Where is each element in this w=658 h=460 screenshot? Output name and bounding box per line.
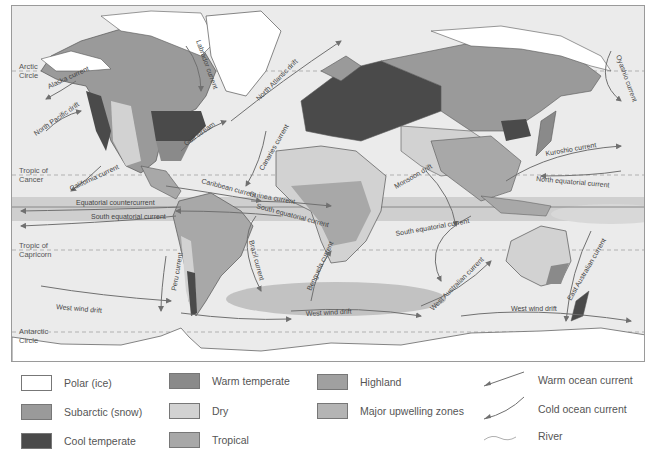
antarctica: [12, 328, 645, 362]
label-north-equatorial-current: North equatorial current: [536, 175, 610, 189]
label-antarctic-circle: Antarctic Circle: [19, 327, 48, 345]
legend-label: Warm ocean current: [538, 374, 633, 386]
legend-item-warm-temperate: Warm temperate: [169, 371, 290, 391]
label-peru-current: Peru current: [170, 252, 184, 291]
legend-item-dry: Dry: [169, 401, 228, 421]
north-america: [41, 11, 216, 199]
label-kuroshio-current: Kuroshio current: [545, 141, 597, 157]
label-east-australian-current: East Australian current: [566, 237, 607, 302]
label-west-wind-drift-1: West wind drift: [56, 303, 102, 314]
world-climate-map: Alaska current North Pacific drift Calif…: [11, 5, 645, 362]
legend-label: Tropical: [212, 434, 249, 446]
swatch-polar: [21, 375, 52, 391]
swatch-cool-temperate: [21, 433, 52, 449]
legend-label: River: [538, 430, 563, 442]
swatch-tropical: [169, 432, 200, 448]
legend-label: Dry: [212, 405, 228, 417]
label-west-wind-drift-3: West wind drift: [511, 305, 557, 312]
label-equatorial-countercurrent: Equatorial countercurrent: [76, 199, 155, 207]
legend-item-subarctic: Subarctic (snow): [21, 402, 142, 422]
river-line-icon: [478, 426, 538, 446]
label-tropic-of-capricorn: Tropic of Capricorn: [19, 241, 52, 259]
warm-current-arrow-icon: [478, 368, 538, 392]
label-north-pacific-drift: North Pacific drift: [33, 100, 81, 136]
legend-label: Major upwelling zones: [360, 405, 464, 417]
legend-label: Subarctic (snow): [64, 406, 142, 418]
swatch-warm-temperate: [169, 373, 200, 389]
legend-label: Cool temperate: [64, 435, 136, 447]
swatch-dry: [169, 403, 200, 419]
swatch-subarctic: [21, 404, 52, 420]
legend-item-polar: Polar (ice): [21, 373, 112, 393]
legend-item-highland: Highland: [317, 372, 401, 392]
legend-item-cold-current: Cold ocean current: [478, 395, 627, 423]
map-legend: Polar (ice) Subarctic (snow) Cool temper…: [0, 362, 658, 460]
legend-item-river: River: [478, 426, 563, 446]
map-canvas: Alaska current North Pacific drift Calif…: [12, 6, 645, 362]
swatch-highland: [317, 374, 348, 390]
legend-item-tropical: Tropical: [169, 430, 249, 450]
label-oyashio-current: Oyashio current: [614, 54, 638, 103]
label-tropic-of-cancer: Tropic of Cancer: [19, 166, 48, 184]
legend-item-warm-current: Warm ocean current: [478, 368, 633, 392]
label-west-australian-current: West Australian current: [429, 256, 485, 312]
legend-label: Warm temperate: [212, 375, 290, 387]
legend-item-upwelling: Major upwelling zones: [317, 401, 464, 421]
label-arctic-circle: Arctic Circle: [19, 62, 38, 80]
cold-current-arrow-icon: [478, 395, 538, 423]
label-monsoon-drift: Monsoon drift: [393, 163, 433, 190]
label-california-current: California current: [68, 163, 119, 192]
legend-label: Cold ocean current: [538, 403, 627, 415]
label-south-equatorial-current-pacific: South equatorial current: [91, 213, 166, 221]
swatch-upwelling: [317, 403, 348, 419]
legend-label: Highland: [360, 376, 401, 388]
legend-item-cool-temperate: Cool temperate: [21, 431, 136, 451]
label-brazil-current: Brazil current: [248, 239, 265, 281]
legend-label: Polar (ice): [64, 377, 112, 389]
